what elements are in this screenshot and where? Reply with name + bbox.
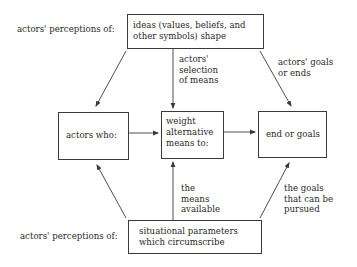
node-ideas: ideas (values, beliefs, and other symbol… xyxy=(127,14,264,49)
edge-label-selection: actors' selection of means xyxy=(179,54,218,86)
node-weight-line2: alternative xyxy=(166,127,213,138)
edge-label-means-available: the means available xyxy=(181,183,220,215)
node-situational-line1: situational parameters xyxy=(139,226,238,237)
node-weight-line3: means to: xyxy=(166,138,209,149)
node-ends-text: end or goals xyxy=(266,129,320,140)
edge-label-goals-ends-line2: or ends xyxy=(278,68,333,79)
edge-label-selection-line3: of means xyxy=(179,75,218,86)
node-weight-line1: weight xyxy=(166,116,196,127)
edge-label-selection-line1: actors' xyxy=(179,54,218,65)
edge-label-goals-ends-line1: actors' goals xyxy=(278,57,333,68)
node-actors-text: actors who: xyxy=(66,130,117,141)
node-actors: actors who: xyxy=(58,112,129,160)
edge-label-goals-pursued-line1: the goals xyxy=(284,183,333,194)
node-situational: situational parameters which circumscrib… xyxy=(128,220,262,254)
edge-label-selection-line2: selection xyxy=(179,65,218,76)
side-label-bottom: actors' perceptions of: xyxy=(20,231,118,242)
node-situational-line2: which circumscribe xyxy=(139,237,225,248)
arrow-situational-to-actors xyxy=(97,165,126,218)
node-ideas-line2: other symbols) shape xyxy=(133,31,226,42)
edge-label-goals-pursued-line2: that can be xyxy=(284,194,333,205)
edge-label-goals-pursued-line3: pursued xyxy=(284,204,333,215)
edge-label-means-available-line3: available xyxy=(181,204,220,215)
edge-label-goals-ends: actors' goals or ends xyxy=(278,57,333,78)
arrow-ideas-to-actors xyxy=(96,51,126,106)
edge-label-goals-pursued: the goals that can be pursued xyxy=(284,183,333,215)
side-label-top: actors' perceptions of: xyxy=(17,24,115,35)
diagram-canvas: actors' perceptions of: ideas (values, b… xyxy=(0,0,357,267)
edge-label-means-available-line1: the xyxy=(181,183,220,194)
edge-label-means-available-line2: means xyxy=(181,194,220,205)
node-weight: weight alternative means to: xyxy=(161,111,224,159)
node-ideas-line1: ideas (values, beliefs, and xyxy=(133,20,246,31)
node-ends: end or goals xyxy=(258,111,327,158)
